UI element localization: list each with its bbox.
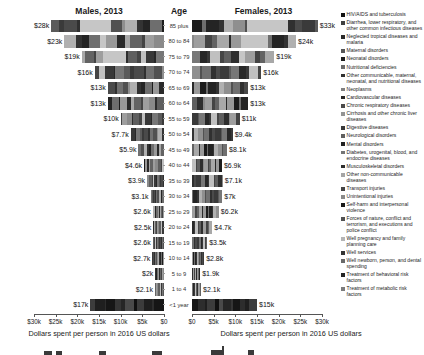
bar-segment — [265, 51, 275, 64]
bar-segment — [231, 128, 233, 141]
bar-segment — [231, 51, 240, 64]
bar-segment — [241, 35, 268, 48]
legend-swatch-icon — [341, 65, 345, 69]
spending-pyramid-chart: Males, 2013 Age Females, 2013 $28k$23k$1… — [0, 0, 424, 355]
bar-male — [51, 20, 164, 33]
bar-value-label: $4.6k — [125, 162, 142, 169]
age-axis-labels: 85 plus80 to 8475 to 7970 to 7465 to 696… — [163, 18, 195, 313]
bar-segment — [224, 51, 231, 64]
bar-segment — [125, 20, 138, 33]
bar-value-label: $17k — [73, 301, 88, 308]
age-tick-left — [163, 165, 165, 166]
bar-value-label: $28k — [34, 22, 49, 29]
bar-segment — [210, 51, 220, 64]
bar-segment — [202, 66, 211, 79]
legend-item: Diabetes, urogenital, blood, and endocri… — [341, 150, 423, 162]
age-row: 20 to 24 — [163, 220, 195, 236]
legend-item: Digestive diseases — [341, 125, 423, 131]
legend-item: Other communicable, maternal, neonatal, … — [341, 73, 423, 85]
bar-row-female: $13k — [192, 96, 335, 112]
age-label: 70 to 74 — [169, 69, 190, 75]
age-row: 35 to 39 — [163, 173, 195, 189]
legend-item: Neglected tropical diseases and malaria — [341, 34, 423, 46]
age-row: 70 to 74 — [163, 65, 195, 81]
bar-segment — [219, 159, 222, 172]
legend-item: HIV/AIDS and tuberculosis — [341, 12, 423, 18]
bar-female — [192, 113, 240, 126]
bar-segment — [231, 35, 241, 48]
bar-row-female: $19k — [192, 49, 335, 65]
bar-male — [82, 51, 164, 64]
legend-item: Nutritional deficiencies — [341, 65, 423, 71]
bar-value-label: $3.5k — [209, 239, 226, 246]
legend-swatch-icon — [341, 251, 345, 255]
age-axis-title: Age — [164, 6, 194, 16]
bar-segment — [219, 97, 226, 110]
legend-item-label: Chronic respiratory diseases — [347, 103, 410, 109]
legend-item-label: Treatment of behavioral risk factors — [347, 272, 423, 284]
age-tick-left — [163, 118, 165, 119]
legend-item: Diarrhea, lower respiratory, and other c… — [341, 20, 423, 32]
age-tick-left — [163, 72, 165, 73]
bar-value-label: $13k — [250, 100, 265, 107]
bar-row-male: $2.1k — [34, 282, 164, 298]
age-label: 45 to 49 — [169, 147, 190, 153]
bar-value-label: $19k — [276, 53, 291, 60]
legend-swatch-icon — [341, 165, 345, 169]
axis-tick — [164, 314, 165, 317]
legend-item-label: Diarrhea, lower respiratory, and other c… — [347, 20, 423, 32]
bar-segment — [249, 66, 258, 79]
axis-tick-label: $30k — [315, 318, 329, 325]
age-label: <1 year — [169, 302, 189, 308]
legend-swatch-icon — [341, 203, 345, 207]
legend-item: Cardiovascular diseases — [341, 95, 423, 101]
legend-item: Unintentional injuries — [341, 194, 423, 200]
bar-female — [192, 51, 274, 64]
bar-segment — [153, 82, 160, 95]
legend-item: Other non-communicable diseases — [341, 172, 423, 184]
legend-item: Maternal disorders — [341, 48, 423, 54]
legend-item-label: Unintentional injuries — [347, 194, 393, 200]
bar-segment — [143, 20, 151, 33]
bar-segment — [207, 299, 215, 312]
bar-segment — [64, 35, 76, 48]
bar-segment — [206, 20, 220, 33]
legend-item: Mental disorders — [341, 142, 423, 148]
bar-female — [192, 283, 201, 296]
bar-segment — [220, 66, 229, 79]
bar-segment — [85, 51, 94, 64]
legend-item: Treatment of behavioral risk factors — [341, 272, 423, 284]
age-tick-left — [163, 134, 165, 135]
legend-item: Neonatal disorders — [341, 56, 423, 62]
bar-segment — [120, 97, 127, 110]
bar-segment — [82, 35, 89, 48]
age-tick-left — [163, 56, 165, 57]
bar-segment — [192, 20, 202, 33]
legend-swatch-icon — [341, 96, 345, 100]
bar-value-label: $33k — [320, 22, 335, 29]
age-label: 30 to 34 — [169, 193, 190, 199]
age-label: 10 to 14 — [169, 255, 190, 261]
bar-segment — [96, 51, 103, 64]
bar-row-male: $2.6k — [34, 204, 164, 220]
age-label: 25 to 29 — [169, 209, 190, 215]
axis-tick — [77, 314, 78, 317]
legend-item-label: Neglected tropical diseases and malaria — [347, 34, 423, 46]
bar-row-male: $16k — [34, 65, 164, 81]
legend-item: Transport injuries — [341, 186, 423, 192]
legend-item-label: Neonatal disorders — [347, 56, 389, 62]
age-row: 75 to 79 — [163, 49, 195, 65]
legend-swatch-icon — [341, 57, 345, 61]
males-bars-panel: $28k$23k$19k$16k$13k$13k$10k$7.7k$5.9k$4… — [34, 18, 164, 313]
legend-item: Chronic respiratory diseases — [341, 103, 423, 109]
legend-swatch-icon — [341, 35, 345, 39]
legend-item-label: Cirrhosis and other chronic liver diseas… — [347, 111, 423, 123]
age-tick-left — [163, 258, 165, 259]
bar-segment — [223, 144, 228, 157]
bar-segment — [222, 175, 223, 188]
age-tick-left — [163, 289, 165, 290]
bar-female — [192, 20, 318, 33]
age-label: 85 plus — [170, 23, 189, 29]
bar-row-male: $13k — [34, 80, 164, 96]
age-label: 80 to 84 — [169, 38, 190, 44]
